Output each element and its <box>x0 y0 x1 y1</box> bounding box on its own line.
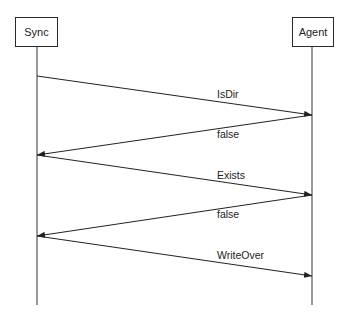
message-arrow-exists <box>37 155 312 195</box>
message-label-isdir: IsDir <box>217 88 239 100</box>
message-arrow-false-2 <box>37 195 312 236</box>
message-arrow-false-1 <box>37 115 312 155</box>
message-arrow-writeover <box>37 236 312 276</box>
participant-sync-label: Sync <box>24 26 48 38</box>
message-label-exists: Exists <box>217 169 245 181</box>
message-arrow-isdir <box>37 76 312 115</box>
participant-agent-label: Agent <box>299 26 328 38</box>
message-label-writeover: WriteOver <box>217 249 264 261</box>
participant-agent: Agent <box>292 17 334 47</box>
message-label-false-1: false <box>217 128 239 140</box>
participant-sync: Sync <box>15 17 58 47</box>
message-label-false-2: false <box>217 208 239 220</box>
sequence-diagram-canvas <box>0 0 349 319</box>
